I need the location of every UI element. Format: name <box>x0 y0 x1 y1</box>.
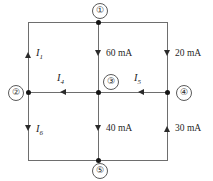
arrowhead-right-top <box>164 50 170 56</box>
circuit-diagram: ① ② ③ ④ ⑤ I1 I4 I5 I6 60 mA 20 mA 40 mA … <box>0 0 213 181</box>
node-label-1: ① <box>92 3 108 19</box>
junction-dot-node-4 <box>165 90 170 95</box>
arrowhead-i5 <box>138 89 144 95</box>
junction-dot-node-2 <box>26 90 31 95</box>
current-label-i1: I1 <box>36 47 43 61</box>
node-label-5: ⑤ <box>92 163 108 179</box>
current-label-i4: I4 <box>57 72 64 86</box>
current-label-i5: I5 <box>134 72 141 86</box>
arrowhead-right-bottom <box>164 126 170 132</box>
current-label-i6: I6 <box>36 123 43 137</box>
junction-dot-node-1 <box>96 20 101 25</box>
current-subscript-i1: 1 <box>40 53 44 61</box>
arrowhead-i6 <box>25 125 31 131</box>
junction-dot-node-3 <box>96 90 101 95</box>
current-subscript-i4: 4 <box>61 78 65 86</box>
current-subscript-i6: 6 <box>40 129 44 137</box>
node-label-2: ② <box>8 85 24 101</box>
current-value-center-bottom: 40 mA <box>106 123 132 133</box>
arrowhead-center-bottom <box>95 125 101 131</box>
current-value-right-bottom: 30 mA <box>175 123 201 133</box>
current-subscript-i5: 5 <box>138 78 142 86</box>
current-value-center-top: 60 mA <box>106 48 132 58</box>
arrowhead-i4 <box>60 89 66 95</box>
node-label-3: ③ <box>103 74 119 90</box>
arrowhead-i1 <box>25 52 31 58</box>
node-label-4: ④ <box>176 85 192 101</box>
current-value-right-top: 20 mA <box>175 48 201 58</box>
arrowhead-center-top <box>95 50 101 56</box>
